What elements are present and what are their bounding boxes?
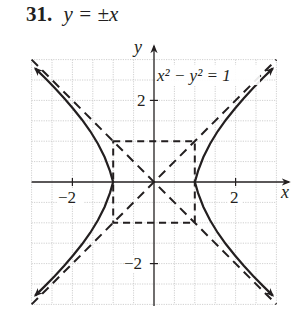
y-axis-label: y [132,37,142,57]
x-tick-label-neg2: −2 [58,188,76,207]
x-axis-label: x [280,182,289,202]
hyperbola-graph: x² − y² = 1 y x −2 2 2 −2 [0,0,305,332]
x-tick-label-2: 2 [230,188,239,207]
y-tick-label-2: 2 [137,91,146,110]
equation-label: x² − y² = 1 [156,66,231,85]
y-tick-label-neg2: −2 [124,254,142,273]
